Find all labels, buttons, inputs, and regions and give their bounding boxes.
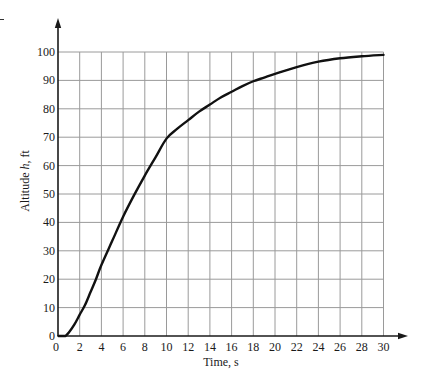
data-series bbox=[59, 55, 384, 336]
x-tick-label: 26 bbox=[328, 341, 352, 353]
x-tick-label: 28 bbox=[350, 341, 374, 353]
x-axis-title: Time, s bbox=[181, 356, 261, 368]
y-tick-label: 90 bbox=[25, 74, 55, 86]
y-tick-label: 100 bbox=[25, 46, 55, 58]
x-tick-label: 20 bbox=[263, 341, 287, 353]
x-tick-label: 10 bbox=[155, 341, 179, 353]
x-tick-label: 18 bbox=[241, 341, 265, 353]
y-axis-title-variable: h bbox=[18, 164, 32, 170]
y-tick-label: 30 bbox=[25, 245, 55, 257]
x-axis-arrow-icon bbox=[398, 333, 408, 339]
y-tick-label: 20 bbox=[25, 273, 55, 285]
altitude-curve bbox=[59, 55, 384, 336]
grid-lines bbox=[58, 52, 384, 336]
plot-area bbox=[0, 0, 426, 388]
chart-figure: 0102030405060708090100 02468101214161820… bbox=[0, 0, 426, 388]
x-tick-label: 14 bbox=[198, 341, 222, 353]
x-tick-label: 24 bbox=[306, 341, 330, 353]
x-tick-label: 2 bbox=[68, 341, 92, 353]
y-axis-title-prefix: Altitude bbox=[18, 170, 32, 212]
y-tick-label: 80 bbox=[25, 103, 55, 115]
x-tick-label: 0 bbox=[44, 341, 68, 353]
y-axis-title-unit: , ft bbox=[18, 150, 32, 163]
x-tick-label: 6 bbox=[111, 341, 135, 353]
y-tick-label: 10 bbox=[25, 302, 55, 314]
x-tick-label: 16 bbox=[220, 341, 244, 353]
y-axis-arrow-icon bbox=[55, 18, 61, 28]
y-axis-title: Altitude h, ft bbox=[19, 141, 31, 221]
x-tick-label: 8 bbox=[133, 341, 157, 353]
x-tick-label: 22 bbox=[285, 341, 309, 353]
x-tick-label: 12 bbox=[176, 341, 200, 353]
x-tick-label: 4 bbox=[89, 341, 113, 353]
x-tick-label: 30 bbox=[372, 341, 396, 353]
